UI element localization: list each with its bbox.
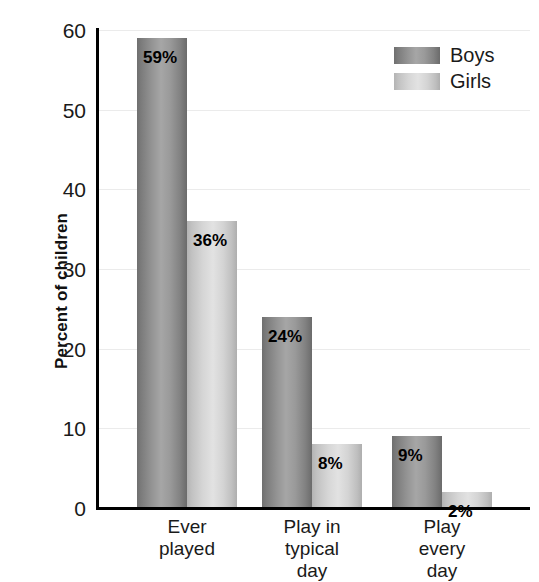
bar-value-label: 8%: [318, 455, 343, 472]
plot-area: 59%36%24%8%9%2%: [96, 30, 530, 508]
y-axis-tick-label: 60: [34, 20, 86, 41]
x-axis-category-label: Everplayed: [127, 516, 247, 560]
bar-value-label: 59%: [143, 49, 177, 66]
legend-swatch-icon: [394, 73, 440, 90]
y-axis-tick-label: 30: [34, 259, 86, 280]
bar-value-label: 36%: [193, 232, 227, 249]
x-axis-category-label-line: day: [252, 560, 372, 582]
y-axis-line: [96, 28, 99, 510]
legend-item-boys[interactable]: Boys: [394, 42, 494, 68]
x-axis-category-label-line: day: [382, 560, 502, 582]
y-axis-tick-label: 0: [34, 498, 86, 519]
bar-girls-1[interactable]: [187, 221, 237, 508]
gridline: [96, 30, 530, 31]
bar-value-label: 9%: [398, 447, 423, 464]
y-axis-tick-label: 50: [34, 99, 86, 120]
bar-boys-1[interactable]: [137, 38, 187, 508]
x-axis-category-label-line: Play in: [252, 516, 372, 538]
x-axis-category-label: Play intypicalday: [252, 516, 372, 582]
x-axis-category-label-line: every: [382, 538, 502, 560]
x-axis-category-label: Playeveryday: [382, 516, 502, 582]
legend-swatch-icon: [394, 47, 440, 64]
bar-chart: Percent of children 59%36%24%8%9%2% 6050…: [0, 0, 539, 582]
y-axis-tick-label: 20: [34, 338, 86, 359]
chart-legend: BoysGirls: [394, 42, 494, 94]
legend-item-girls[interactable]: Girls: [394, 68, 494, 94]
legend-label: Girls: [450, 71, 491, 91]
y-axis-tick-label: 10: [34, 418, 86, 439]
bar-value-label: 24%: [268, 328, 302, 345]
x-axis-category-label-line: played: [127, 538, 247, 560]
x-axis-line: [96, 507, 530, 510]
legend-label: Boys: [450, 45, 494, 65]
x-axis-category-label-line: typical: [252, 538, 372, 560]
y-axis-tick-label: 40: [34, 179, 86, 200]
x-axis-category-label-line: Ever: [127, 516, 247, 538]
y-axis-tick-labels: 6050403020100: [20, 30, 86, 508]
x-axis-category-label-line: Play: [382, 516, 502, 538]
